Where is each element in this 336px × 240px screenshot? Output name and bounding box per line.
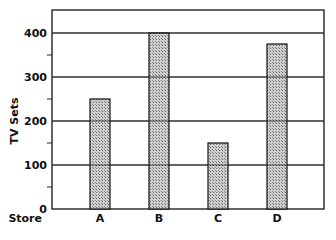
y-tick-label: 400 xyxy=(24,27,47,40)
y-axis-label: TV Sets xyxy=(8,97,21,144)
y-tick-label: 200 xyxy=(24,115,47,128)
bar-a xyxy=(90,99,110,209)
bar-c xyxy=(208,143,228,209)
y-tick-label: 300 xyxy=(24,71,47,84)
x-axis: ABCD xyxy=(96,212,282,225)
x-tick-label: B xyxy=(155,212,163,225)
x-axis-label: Store xyxy=(8,212,42,225)
x-tick-label: A xyxy=(96,212,105,225)
x-tick-label: D xyxy=(272,212,281,225)
plot-area xyxy=(52,10,324,209)
bar-chart: 0100200300400 ABCD TV Sets Store xyxy=(0,0,336,240)
y-tick-label: 100 xyxy=(24,159,47,172)
x-tick-label: C xyxy=(214,212,222,225)
bar-d xyxy=(267,44,287,209)
y-axis: 0100200300400 xyxy=(24,27,52,216)
